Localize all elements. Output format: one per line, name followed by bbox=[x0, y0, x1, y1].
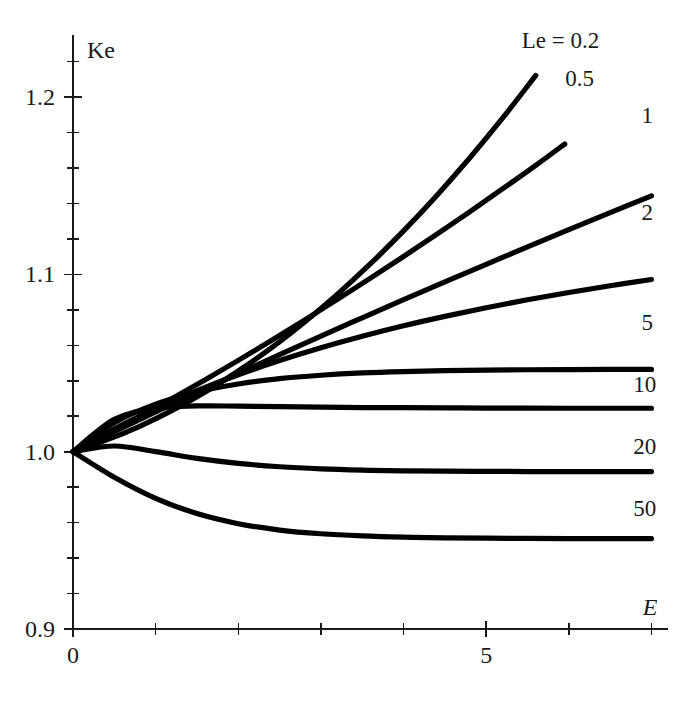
y-tick-label: 1.0 bbox=[25, 439, 55, 465]
curve-label-1: 1 bbox=[642, 103, 654, 128]
curve-le-0.2 bbox=[73, 75, 536, 451]
curve-label-0.2: Le = 0.2 bbox=[522, 28, 599, 53]
y-axis-title: Ke bbox=[87, 37, 115, 63]
x-tick-label: 5 bbox=[480, 642, 492, 668]
y-tick-label: 1.2 bbox=[25, 84, 55, 110]
chart-figure: 0.91.01.11.205 Le = 0.20.5125102050 KeE bbox=[0, 0, 682, 706]
curves-group bbox=[73, 75, 651, 538]
curve-label-5: 5 bbox=[642, 310, 654, 335]
curve-label-2: 2 bbox=[642, 200, 654, 225]
axis-titles-group: KeE bbox=[87, 37, 658, 620]
tick-labels-group: 0.91.01.11.205 bbox=[25, 84, 492, 668]
curve-le-20 bbox=[73, 446, 651, 472]
curve-label-20: 20 bbox=[633, 434, 656, 459]
curve-le-1 bbox=[73, 196, 651, 452]
y-tick-label: 1.1 bbox=[25, 261, 55, 287]
curve-le-50 bbox=[73, 452, 651, 539]
curve-le-2 bbox=[73, 280, 651, 452]
x-tick-label: 0 bbox=[67, 642, 79, 668]
line-chart-svg: 0.91.01.11.205 Le = 0.20.5125102050 KeE bbox=[0, 0, 682, 706]
y-tick-label: 0.9 bbox=[25, 616, 55, 642]
curve-labels-group: Le = 0.20.5125102050 bbox=[522, 28, 657, 521]
x-axis-title: E bbox=[642, 594, 658, 620]
curve-label-0.5: 0.5 bbox=[565, 66, 594, 91]
curve-label-50: 50 bbox=[633, 496, 656, 521]
curve-label-10: 10 bbox=[633, 372, 656, 397]
